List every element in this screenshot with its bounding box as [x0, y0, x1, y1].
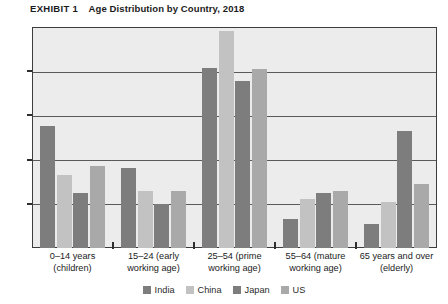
- bar-group: [194, 27, 275, 248]
- x-tick-label-line: 15–24 (early: [107, 251, 200, 263]
- bar-groups: [32, 27, 437, 248]
- chart-legend: IndiaChinaJapanUS: [0, 285, 448, 295]
- bar-india: [202, 68, 217, 248]
- legend-swatch-icon: [281, 286, 289, 294]
- bar-us: [171, 191, 186, 248]
- x-tick-label-line: working age): [269, 263, 362, 275]
- bar-group: [275, 27, 356, 248]
- legend-swatch-icon: [186, 286, 194, 294]
- x-tick-label-line: 25–54 (prime: [188, 251, 281, 263]
- x-tick-label-line: (children): [26, 263, 119, 275]
- x-tick-label: 65 years and over(elderly): [350, 251, 443, 274]
- bar-china: [300, 199, 315, 248]
- x-tick-label-line: working age): [107, 263, 200, 275]
- x-tick-label: 55–64 (matureworking age): [269, 251, 362, 274]
- legend-label: India: [155, 285, 175, 295]
- x-tick-label-line: 65 years and over: [350, 251, 443, 263]
- legend-label: China: [198, 285, 222, 295]
- x-tick-label-line: working age): [188, 263, 281, 275]
- bar-china: [219, 31, 234, 248]
- bar-japan: [397, 131, 412, 248]
- chart-container: 00.10.20.30.40.5 0–14 years(children)15–…: [0, 0, 448, 304]
- bar-us: [252, 69, 267, 248]
- bar-japan: [154, 204, 169, 248]
- bar-china: [138, 191, 153, 248]
- bar-japan: [235, 81, 250, 248]
- bar-india: [283, 219, 298, 248]
- x-tick-label-line: 55–64 (mature: [269, 251, 362, 263]
- legend-item[interactable]: US: [281, 285, 306, 295]
- x-tick-label-line: 0–14 years: [26, 251, 119, 263]
- x-tick-label-line: (elderly): [350, 263, 443, 275]
- bar-china: [381, 202, 396, 248]
- legend-swatch-icon: [233, 286, 241, 294]
- bar-india: [40, 126, 55, 248]
- legend-item[interactable]: India: [143, 285, 175, 295]
- bar-group: [356, 27, 437, 248]
- bar-japan: [316, 193, 331, 248]
- legend-swatch-icon: [143, 286, 151, 294]
- bar-us: [414, 184, 429, 248]
- bar-us: [90, 166, 105, 248]
- legend-item[interactable]: China: [186, 285, 222, 295]
- bar-india: [364, 224, 379, 248]
- bar-group: [113, 27, 194, 248]
- legend-label: US: [293, 285, 306, 295]
- bar-us: [333, 191, 348, 248]
- bar-japan: [73, 193, 88, 248]
- legend-item[interactable]: Japan: [233, 285, 270, 295]
- x-tick-label: 0–14 years(children): [26, 251, 119, 274]
- bar-india: [121, 168, 136, 248]
- bar-china: [57, 175, 72, 248]
- x-tick-label: 25–54 (primeworking age): [188, 251, 281, 274]
- x-tick-label: 15–24 (earlyworking age): [107, 251, 200, 274]
- legend-label: Japan: [245, 285, 270, 295]
- bar-group: [32, 27, 113, 248]
